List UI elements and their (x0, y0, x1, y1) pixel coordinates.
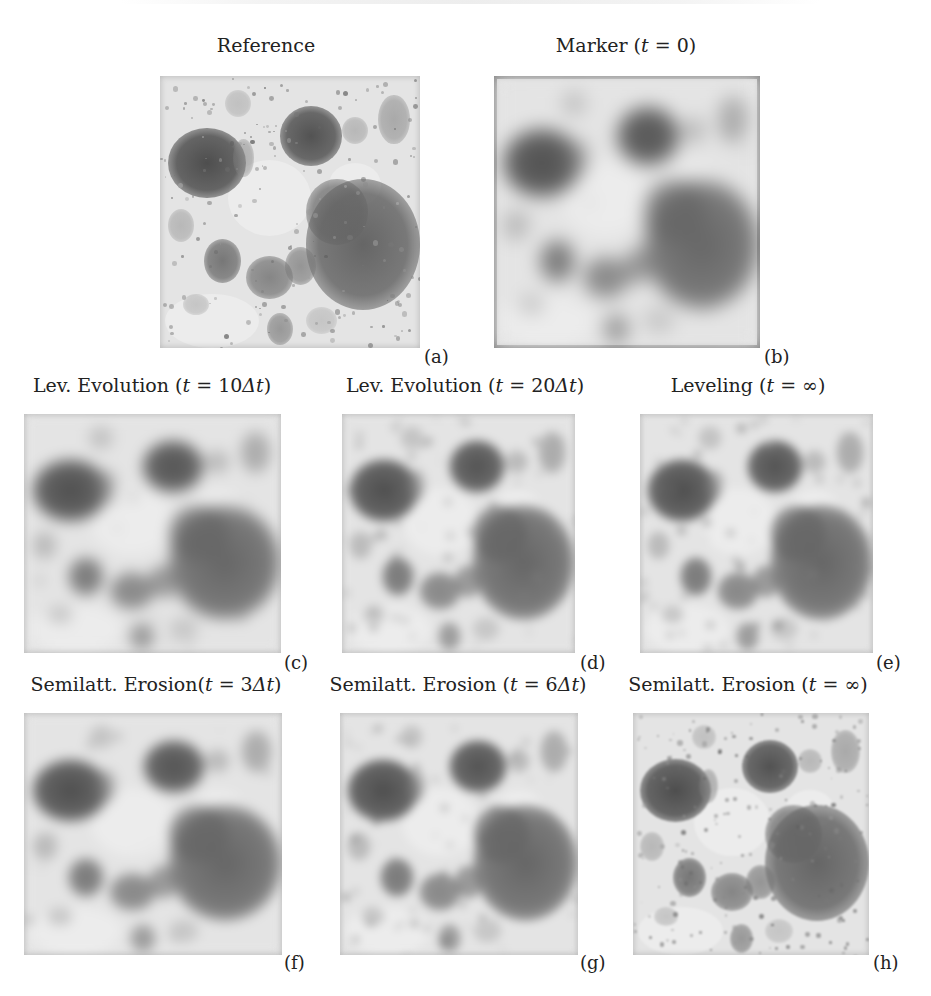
image-panel-lev-evolution-20 (342, 414, 575, 653)
image-panel-lev-evolution-10 (24, 414, 281, 653)
title-semilatt-erosion-3: Semilatt. Erosion(t = 3Δt) (31, 673, 282, 695)
image-panel-semilatt-erosion-inf (633, 713, 869, 955)
title-lev-evolution-20: Lev. Evolution (t = 20Δt) (346, 374, 584, 396)
image-texture (342, 414, 575, 653)
subfigure-label-g: (g) (580, 952, 606, 973)
subfigure-label-b: (b) (764, 346, 790, 367)
image-panel-leveling (640, 414, 873, 653)
title-leveling: Leveling (t = ∞) (671, 374, 826, 396)
title-semilatt-erosion-inf: Semilatt. Erosion (t = ∞) (628, 673, 867, 695)
image-panel-semilatt-erosion-3 (24, 713, 282, 955)
subfigure-label-e: (e) (876, 652, 901, 673)
subfigure-label-a: (a) (424, 346, 449, 367)
title-lev-evolution-10: Lev. Evolution (t = 10Δt) (33, 374, 271, 396)
subfigure-label-c: (c) (284, 652, 308, 673)
title-marker: Marker (t = 0) (556, 34, 696, 56)
cropped-text-remnant (120, 0, 820, 4)
image-texture (160, 76, 420, 348)
subfigure-label-d: (d) (580, 652, 606, 673)
image-texture (640, 414, 873, 653)
title-reference: Reference (217, 34, 315, 56)
image-panel-marker (494, 76, 760, 348)
image-panel-semilatt-erosion-6 (340, 713, 578, 955)
title-semilatt-erosion-6: Semilatt. Erosion (t = 6Δt) (330, 673, 587, 695)
image-panel-reference (160, 76, 420, 348)
image-texture (24, 713, 282, 955)
image-texture (494, 76, 760, 348)
subfigure-label-h: (h) (873, 952, 899, 973)
image-texture (340, 713, 578, 955)
image-texture (24, 414, 281, 653)
subfigure-label-f: (f) (284, 952, 305, 973)
image-texture (633, 713, 869, 955)
